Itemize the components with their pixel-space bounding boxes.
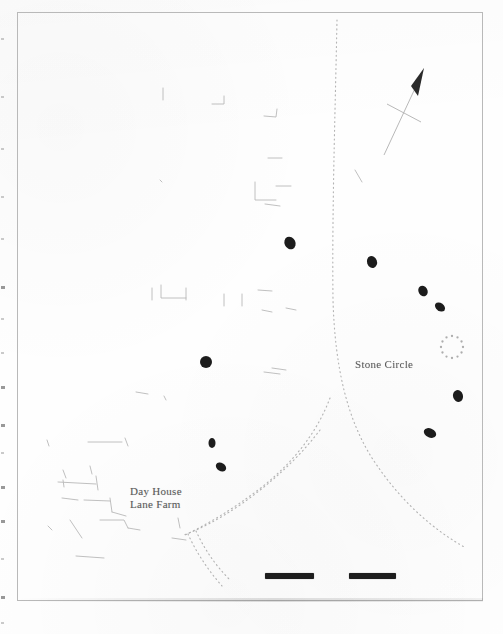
standing-stone-marker <box>452 389 465 403</box>
trackway-line <box>333 20 466 548</box>
trackway-line <box>183 398 330 536</box>
scanned-page: Stone Circle Day House Lane Farm <box>0 0 503 634</box>
north-arrow-icon <box>384 68 424 155</box>
scan-edge-artifact <box>1 196 4 198</box>
scale-bar-segment <box>349 573 396 579</box>
ring-dot <box>460 340 462 342</box>
field-boundary-line <box>161 285 186 298</box>
scale-bar-segment <box>265 573 314 579</box>
field-boundary-line <box>63 480 64 487</box>
label-day-house-lane-farm: Day House Lane Farm <box>130 485 182 511</box>
scan-edge-artifact <box>1 452 4 454</box>
ring-dot <box>451 335 453 337</box>
scan-edge-artifact <box>1 596 5 599</box>
scan-edge-artifact <box>1 238 4 240</box>
scan-edge-artifact <box>1 286 5 289</box>
scan-edge-artifact <box>1 148 4 150</box>
field-boundary-line <box>63 470 66 478</box>
trackway-line <box>196 531 230 580</box>
trackway-dotted-lines <box>183 20 466 586</box>
ring-dot <box>456 336 458 338</box>
standing-stone-marker <box>433 301 447 314</box>
ring-dot <box>451 357 453 359</box>
field-boundary-line <box>136 392 148 394</box>
field-boundary-lines <box>47 88 362 558</box>
field-boundary-line <box>272 368 286 370</box>
field-boundary-line <box>125 438 128 446</box>
field-boundary-line <box>264 372 280 374</box>
ring-dot <box>445 355 447 357</box>
trackway-line <box>184 430 320 535</box>
field-boundary-line <box>172 538 186 540</box>
scan-edge-artifact <box>1 318 4 320</box>
field-boundary-line <box>178 518 180 528</box>
dotted-ring-symbol <box>440 335 464 359</box>
ring-dot <box>460 351 462 353</box>
scan-edge-artifact <box>1 38 4 40</box>
field-boundary-line <box>84 500 110 501</box>
field-boundary-line <box>286 308 296 310</box>
ring-dot <box>440 346 442 348</box>
field-boundary-line <box>265 204 280 206</box>
trackway-line <box>188 534 222 586</box>
ring-dot <box>441 340 443 342</box>
field-boundary-line <box>128 528 140 530</box>
ring-dot <box>462 346 464 348</box>
field-boundary-line <box>110 498 112 512</box>
standing-stone-marker <box>365 255 379 270</box>
field-boundary-line <box>164 396 166 400</box>
north-arrow-crossbar <box>387 104 421 122</box>
field-boundary-line <box>76 556 104 558</box>
field-boundary-line <box>355 170 362 182</box>
standing-stone-marker <box>416 284 429 298</box>
map-drawing-area <box>17 12 483 601</box>
scan-edge-artifact <box>1 352 4 354</box>
field-boundary-line <box>258 290 272 291</box>
scale-bar <box>265 573 390 582</box>
scan-edge-artifact <box>1 622 4 624</box>
scan-edge-artifact <box>1 558 4 560</box>
ring-dot <box>456 355 458 357</box>
field-boundary-line <box>160 180 162 182</box>
field-boundary-line <box>62 498 78 500</box>
scan-edge-artifact <box>1 386 5 389</box>
field-boundary-line <box>255 182 276 200</box>
field-boundary-line <box>112 512 126 516</box>
standing-stone-marker <box>422 426 438 440</box>
map-vector-layer <box>17 12 483 601</box>
north-arrow-shaft <box>384 82 418 155</box>
field-boundary-line <box>47 440 49 446</box>
scan-edge-artifacts <box>0 0 12 634</box>
label-stone-circle: Stone Circle <box>355 358 413 371</box>
field-boundary-line <box>212 96 224 104</box>
ring-dot <box>441 351 443 353</box>
field-boundary-line <box>70 520 82 538</box>
field-boundary-line <box>96 476 98 490</box>
scan-edge-artifact <box>1 520 5 523</box>
field-boundary-line <box>100 520 128 528</box>
scan-edge-artifact <box>1 486 5 489</box>
standing-stone-marker <box>214 461 228 473</box>
standing-stone-markers <box>200 235 464 473</box>
standing-stone-marker <box>200 356 212 368</box>
standing-stone-marker <box>282 235 297 251</box>
scan-edge-artifact <box>1 96 4 98</box>
ring-dot <box>445 336 447 338</box>
standing-stone-marker <box>209 438 216 448</box>
field-boundary-line <box>48 526 52 530</box>
field-boundary-line <box>262 310 272 312</box>
scan-edge-artifact <box>1 424 5 427</box>
field-boundary-line <box>90 466 92 474</box>
field-boundary-line <box>264 109 277 117</box>
